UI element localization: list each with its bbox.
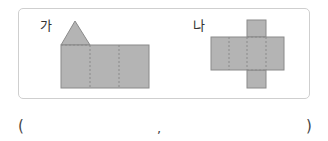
figures-svg bbox=[0, 0, 328, 141]
figure-na bbox=[211, 20, 284, 88]
answer-separator[interactable]: , bbox=[157, 121, 161, 136]
answer-close-paren: ) bbox=[306, 117, 312, 135]
answer-open-paren: ( bbox=[18, 117, 24, 135]
figure-ga bbox=[61, 21, 149, 88]
